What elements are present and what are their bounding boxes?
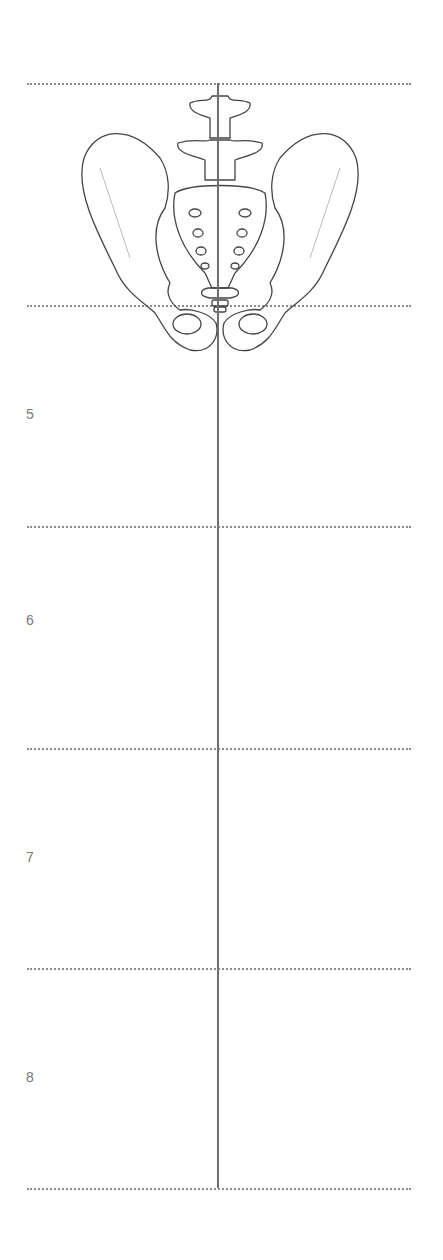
row-label-6: 6 (26, 612, 34, 628)
row-label-8: 8 (26, 1069, 34, 1085)
guide-line-5 (27, 968, 411, 970)
guide-line-4 (27, 748, 411, 750)
pelvis-illustration (70, 88, 370, 358)
guide-line-3 (27, 526, 411, 528)
guide-line-6 (27, 1188, 411, 1190)
guide-line-1 (27, 83, 411, 85)
row-label-5: 5 (26, 406, 34, 422)
row-label-7: 7 (26, 849, 34, 865)
vertical-axis-line (217, 83, 219, 1188)
